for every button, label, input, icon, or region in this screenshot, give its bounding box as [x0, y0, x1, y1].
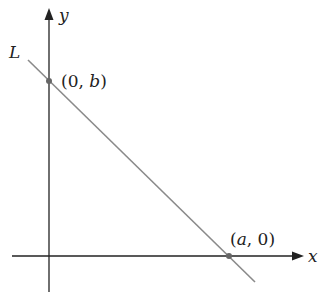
line-L — [28, 60, 255, 282]
x-intercept-label: (a, 0) — [230, 229, 275, 249]
y-axis-arrow-icon — [45, 8, 54, 20]
x-axis-arrow-icon — [292, 252, 304, 261]
y-axis-label: y — [58, 5, 69, 25]
coordinate-diagram: y x L (0, b) (a, 0) — [0, 0, 321, 297]
x-axis-label: x — [308, 246, 318, 266]
y-intercept-label-close: ) — [100, 71, 107, 91]
x-intercept-label-var: a — [237, 229, 247, 249]
line-label: L — [8, 42, 20, 62]
y-intercept-label-var: b — [89, 71, 100, 91]
x-intercept-label-open: ( — [230, 229, 237, 249]
x-intercept-label-close: , 0) — [247, 229, 275, 249]
y-intercept-point — [46, 78, 52, 84]
x-intercept-point — [226, 253, 232, 259]
y-intercept-label: (0, b) — [61, 71, 107, 91]
y-intercept-label-open: (0, — [61, 71, 89, 91]
